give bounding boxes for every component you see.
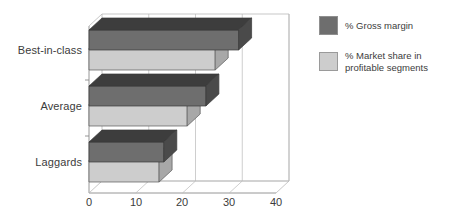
- legend-label-gross-margin: % Gross margin: [345, 20, 453, 32]
- bar-front-face: [89, 86, 206, 106]
- bar-front-face: [89, 30, 239, 50]
- legend-swatch-market-share: [319, 52, 338, 71]
- category-label-laggards: Laggards: [0, 156, 82, 168]
- legend-swatch-gross-margin: [319, 16, 338, 35]
- bar-laggards-gross-margin: [89, 130, 177, 162]
- legend-label-market-share: % Market share in profitable segments: [345, 50, 455, 74]
- x-tick-label-30: 30: [214, 196, 244, 208]
- bar-top-face: [89, 18, 252, 30]
- bar-average-gross-margin: [89, 74, 219, 106]
- x-tick-label-20: 20: [167, 196, 197, 208]
- y-axis-ticks: [85, 80, 89, 136]
- chart-container: Best-in-class Average Laggards 0 10 20 3…: [0, 0, 457, 211]
- bar-top-face: [89, 74, 219, 86]
- depth-edge-bottom-left: [89, 181, 102, 193]
- x-axis-ticks: [136, 181, 243, 193]
- x-tick-label-10: 10: [121, 196, 151, 208]
- x-tick-label-40: 40: [261, 196, 291, 208]
- bar-front-face: [89, 104, 187, 126]
- tick-mark-20: [183, 181, 196, 193]
- bar-front-face: [89, 160, 159, 182]
- bar-front-face: [89, 142, 164, 162]
- category-label-best-in-class: Best-in-class: [0, 44, 82, 56]
- x-tick-label-0: 0: [74, 196, 104, 208]
- bar-front-face: [89, 48, 215, 70]
- depth-edge-bottom-right: [276, 181, 289, 193]
- bar-top-face: [89, 130, 177, 142]
- category-label-average: Average: [0, 100, 82, 112]
- tick-mark-10: [136, 181, 149, 193]
- tick-mark-30: [229, 181, 242, 193]
- bar-best-in-class-gross-margin: [89, 18, 252, 50]
